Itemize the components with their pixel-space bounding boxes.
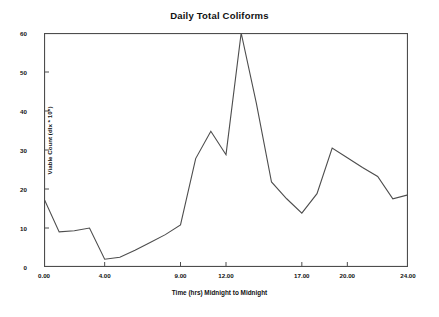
plot-area: Viable Count (dlx * 10⁵)	[44, 33, 408, 267]
y-tick-label-40: 40	[1, 108, 27, 115]
y-tick-label-10: 10	[1, 225, 27, 232]
x-tick-label-4: 4.00	[85, 272, 125, 279]
plot-border	[45, 34, 408, 267]
y-tick-label-50: 50	[1, 69, 27, 76]
data-series-line	[44, 33, 408, 259]
x-tick-label-0: 0.00	[24, 272, 64, 279]
y-axis-title: Viable Count (dlx * 10⁵)	[46, 41, 53, 241]
y-tick-label-30: 30	[1, 147, 27, 154]
plot-svg	[44, 33, 408, 267]
x-axis-title: Time (hrs) Midnight to Midnight	[0, 289, 439, 296]
x-tick-label-20: 20.00	[327, 272, 367, 279]
x-tick-label-12: 12.00	[206, 272, 246, 279]
x-tick-label-17: 17.00	[282, 272, 322, 279]
x-tick-label-24: 24.00	[388, 272, 428, 279]
y-tick-label-0: 0	[1, 264, 27, 271]
y-tick-label-60: 60	[1, 30, 27, 37]
y-tick-label-20: 20	[1, 186, 27, 193]
chart-title: Daily Total Coliforms	[0, 10, 439, 21]
x-tick-label-9: 9.00	[161, 272, 201, 279]
chart-figure: Daily Total Coliforms 60 50 40 30 20 10 …	[0, 0, 439, 317]
